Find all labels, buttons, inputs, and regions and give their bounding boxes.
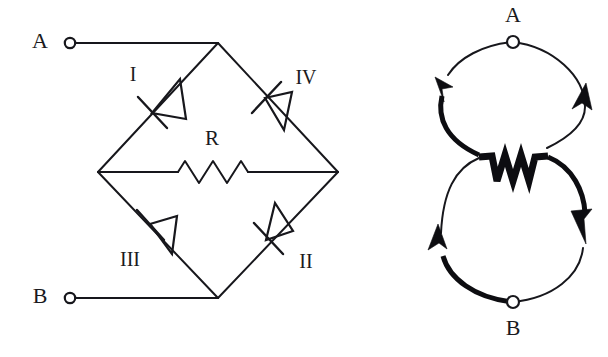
- bottom-loop-upper-left-thin-arc: [441, 158, 479, 233]
- loop-terminal-a-label: A: [505, 2, 521, 27]
- terminal-a-label: A: [32, 28, 48, 53]
- top-loop-upper-left-thin-arc: [448, 42, 513, 75]
- diode-ii-triangle: [266, 203, 293, 240]
- figure-root: A B R I: [0, 0, 608, 357]
- bottom-loop-lower-right-thin-arc: [513, 248, 583, 302]
- top-loop-left-thick-arc: [441, 96, 479, 155]
- loop-terminal-b-label: B: [506, 315, 521, 340]
- terminal-a-dot[interactable]: [65, 38, 75, 48]
- bottom-left-arrow-icon: [428, 224, 447, 250]
- diode-ii[interactable]: [254, 203, 293, 254]
- diode-iv-bar: [252, 82, 281, 113]
- bottom-loop-upper-right-thick-arc: [548, 157, 585, 213]
- current-flow-loops: A B: [428, 2, 592, 340]
- loop-terminal-b-dot[interactable]: [507, 296, 519, 308]
- diode-iii-label: III: [120, 248, 140, 270]
- resistor-zigzag: [178, 161, 248, 183]
- bottom-loop-left-thick-arc: [443, 256, 513, 302]
- top-right-arrow-icon: [572, 83, 592, 110]
- diode-ii-label: II: [299, 250, 312, 272]
- loop-resistor-zigzag: [479, 155, 548, 181]
- diode-iii-bar: [137, 210, 164, 240]
- diode-iv[interactable]: [252, 82, 292, 130]
- diode-i-triangle: [152, 79, 186, 119]
- bridge-rectifier-circuit: A B R I: [32, 28, 338, 308]
- bridge-arm-top-left: [98, 43, 218, 172]
- diode-iii-triangle: [150, 216, 177, 254]
- terminal-b-label: B: [33, 283, 48, 308]
- diode-i-label: I: [130, 63, 137, 85]
- top-loop-right-thin-arc: [513, 42, 585, 148]
- circuit-figure: A B R I: [0, 0, 608, 357]
- loop-terminal-a-dot[interactable]: [507, 36, 519, 48]
- terminal-b-dot[interactable]: [65, 293, 75, 303]
- resistor-label-r: R: [205, 126, 219, 150]
- bottom-right-arrow-icon: [571, 209, 592, 244]
- bridge-arm-top-right: [218, 43, 338, 172]
- diode-iv-triangle: [265, 92, 292, 130]
- diode-iv-label: IV: [295, 66, 317, 88]
